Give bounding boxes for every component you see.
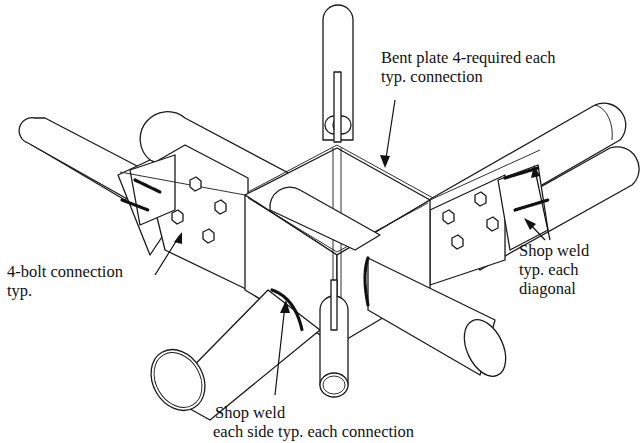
bolt-icon [172, 210, 183, 224]
shop-weld-diagonal-callout-line3: diagonal [519, 279, 589, 298]
bent-plate-callout-line2: typ. connection [381, 67, 556, 86]
shop-weld-diagonal-callout-line1: Shop weld [519, 241, 589, 260]
bolt-icon [190, 177, 201, 191]
shop-weld-diagonal-callout: Shop weld typ. each diagonal [519, 241, 589, 298]
bolt-connection-callout: 4-bolt connection typ. [7, 262, 123, 300]
shop-weld-connection-callout-line1: Shop weld [213, 403, 414, 422]
bolt-connection-callout-line2: typ. [7, 281, 123, 300]
shop-weld-connection-callout: Shop weld each side typ. each connection [213, 403, 414, 441]
shop-weld-diagonal-callout-line2: typ. each [519, 260, 589, 279]
bent-plate-callout: Bent plate 4-required each typ. connecti… [381, 48, 556, 86]
bolt-icon [203, 229, 214, 243]
bolt-icon [487, 217, 498, 231]
bolt-icon [452, 235, 463, 249]
top-vertical-tube [323, 5, 353, 142]
bolt-connection-callout-line1: 4-bolt connection [7, 262, 123, 281]
bent-plate-callout-line1: Bent plate 4-required each [381, 48, 556, 67]
bolt-icon [475, 192, 486, 206]
bolt-icon [443, 210, 454, 224]
front-left-chord-tube [140, 290, 320, 420]
bolt-icon [215, 200, 226, 214]
connection-detail-figure: Bent plate 4-required each typ. connecti… [0, 0, 642, 443]
shop-weld-connection-callout-line2: each side typ. each connection [213, 422, 414, 441]
